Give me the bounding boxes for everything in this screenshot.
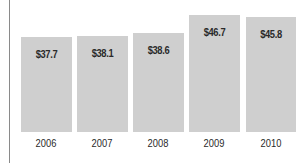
bar-2006: $37.7 — [21, 37, 72, 132]
x-tick-label-2006: 2006 — [24, 137, 68, 149]
left-border-line — [9, 0, 10, 163]
x-tick-label-2008: 2008 — [136, 137, 180, 149]
bar-2010: $45.8 — [246, 17, 296, 132]
x-tick-label-2009: 2009 — [192, 137, 236, 149]
x-tick-label-2010: 2010 — [249, 137, 293, 149]
bar-value-label: $45.8 — [250, 28, 293, 40]
bar-value-label: $38.6 — [137, 44, 180, 56]
bar-value-label: $38.1 — [81, 47, 124, 59]
bar-2008: $38.6 — [133, 33, 184, 132]
bar-2009: $46.7 — [189, 15, 240, 132]
bar-value-label: $46.7 — [193, 26, 236, 38]
x-tick-label-2007: 2007 — [80, 137, 124, 149]
bar-2007: $38.1 — [77, 36, 128, 132]
bar-value-label: $37.7 — [25, 48, 68, 60]
